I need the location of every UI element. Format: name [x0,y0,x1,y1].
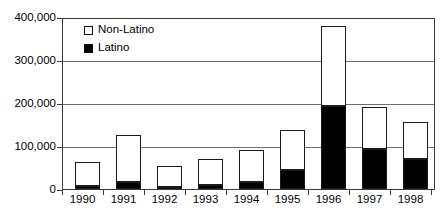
y-axis-tick-label: 300,000 [0,55,56,67]
legend-label-latino: Latino [98,42,129,54]
legend-swatch-latino-icon [84,44,93,53]
bar-segment-non-latino [157,166,182,187]
x-axis-tick-label-1991: 1991 [103,194,144,206]
bar-segment-latino [157,187,182,189]
y-axis-tick-label: 0 [0,184,56,196]
bar-group-1997 [362,107,387,189]
legend-swatch-non-latino-icon [84,26,93,35]
bar-segment-latino [239,182,264,189]
bar-segment-non-latino [403,122,428,159]
x-axis-tick-label-1992: 1992 [144,194,185,206]
bar-segment-non-latino [198,159,223,185]
legend-item-non-latino: Non-Latino [84,22,154,38]
bar-group-1990 [75,162,100,189]
x-axis-tick-label-1994: 1994 [226,194,267,206]
bar-chart-figure: 400,000 300,000 200,000 100,000 0 [0,0,443,223]
bar-segment-latino [116,182,141,189]
bar-segment-latino [321,106,346,189]
bar-group-1994 [239,150,264,189]
x-axis-tick-label-1995: 1995 [267,194,308,206]
bar-group-1993 [198,159,223,189]
bar-group-1998 [403,122,428,189]
bar-segment-latino [75,186,100,189]
legend-item-latino: Latino [84,40,154,56]
bar-group-1992 [157,166,182,189]
bar-group-1991 [116,135,141,189]
bar-segment-latino [198,185,223,189]
x-axis: 1990 1991 1992 1993 1994 1995 1996 1997 … [62,194,435,216]
bar-group-1996 [321,26,346,189]
x-axis-tick-label-1998: 1998 [390,194,431,206]
bar-segment-non-latino [116,135,141,182]
y-axis-tick-label: 400,000 [0,12,56,24]
bar-segment-non-latino [75,162,100,187]
bar-segment-latino [280,170,305,189]
bar-segment-latino [362,149,387,189]
bar-group-1995 [280,130,305,189]
legend-label-non-latino: Non-Latino [98,24,154,36]
bar-segment-non-latino [321,26,346,107]
bar-segment-non-latino [362,107,387,149]
y-axis-tick-label: 100,000 [0,141,56,153]
x-axis-tick-label-1997: 1997 [349,194,390,206]
x-axis-tick-label-1990: 1990 [62,194,103,206]
bar-segment-latino [403,159,428,189]
bar-segment-non-latino [239,150,264,182]
y-axis: 400,000 300,000 200,000 100,000 0 [0,0,56,223]
x-axis-tick-label-1993: 1993 [185,194,226,206]
x-axis-tick-label-1996: 1996 [308,194,349,206]
legend: Non-Latino Latino [84,22,154,58]
bar-segment-non-latino [280,130,305,170]
y-axis-tick-label: 200,000 [0,98,56,110]
